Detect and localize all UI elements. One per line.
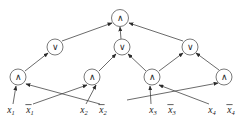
literal-text: x2 [98,105,107,116]
literals-layer: x1x1x2x2x3x3x4x4 [6,105,235,116]
or-gate-symbol: ∨ [187,42,194,52]
edge-lit-x1-to-and-1 [13,86,16,104]
edge-lit-not-x3-to-and-4 [127,83,218,100]
and-gate-symbol: ∧ [149,72,156,82]
literal-text: x4 [207,105,216,116]
edge-or-2-to-top-and [120,27,121,39]
edge-line [25,53,48,71]
edge-and-3-to-or-2 [128,54,146,71]
edge-line [129,23,183,41]
gate-and-2[interactable]: ∧ [84,69,100,85]
edge-lit-x4-to-and-3 [159,85,209,104]
literal-lit-not-x4: x4 [226,105,235,116]
circuit-canvas: ∧∨∨∨∧∧∧∧ x1x1x2x2x3x3x4x4 [0,0,244,125]
edge-or-3-to-top-and [129,23,183,41]
literal-text: x2 [79,105,88,116]
edge-and-2-to-or-2 [99,54,116,71]
edge-lit-x3-to-and-3 [150,86,151,104]
literal-text: x4 [226,105,235,116]
literal-lit-x2: x2 [79,105,88,116]
edge-and-4-to-or-3 [196,53,219,70]
gate-and-4[interactable]: ∧ [216,69,232,85]
edge-line [99,54,116,71]
literal-text: x3 [167,105,176,116]
edge-line [127,83,218,100]
gate-or-3[interactable]: ∨ [182,39,198,55]
literal-lit-x1: x1 [6,105,14,116]
edge-line [86,85,96,104]
edge-lit-x2-to-and-2 [86,85,96,104]
gate-and-3[interactable]: ∧ [144,69,160,85]
edge-line [128,54,146,71]
literal-lit-not-x2: x2 [98,105,107,116]
edge-and-1-to-or-1 [25,53,48,71]
literal-lit-not-x3: x3 [167,105,176,116]
edge-and-3-to-or-3 [159,53,183,71]
edge-line [196,53,219,70]
literal-lit-not-x1: x1 [25,105,33,116]
or-gate-symbol: ∨ [52,42,59,52]
literal-text: x1 [25,105,33,116]
literal-text: x3 [148,105,157,116]
and-gate-symbol: ∧ [117,13,124,23]
nodes-layer: ∧∨∨∨∧∧∧∧ [10,10,232,86]
edge-or-1-to-top-and [62,23,112,41]
gate-or-1[interactable]: ∨ [47,39,63,55]
and-gate-symbol: ∧ [15,72,22,82]
edge-line [120,27,121,39]
edge-line [159,85,209,104]
literal-lit-x4: x4 [207,105,216,116]
edge-line [150,86,151,104]
boolean-circuit-figure: ∧∨∨∨∧∧∧∧ x1x1x2x2x3x3x4x4 [0,0,244,125]
literal-text: x1 [6,105,14,116]
literal-lit-x3: x3 [148,105,157,116]
edge-lit-not-x2-to-and-1 [26,84,100,104]
gate-or-2[interactable]: ∨ [114,39,130,55]
edge-line [159,53,183,71]
edge-line [62,23,112,41]
gate-and-1[interactable]: ∧ [10,69,26,85]
or-gate-symbol: ∨ [119,42,126,52]
edge-line [26,84,100,104]
and-gate-symbol: ∧ [89,72,96,82]
edge-line [13,86,16,104]
gate-top-and[interactable]: ∧ [112,10,129,27]
and-gate-symbol: ∧ [221,72,228,82]
edges-layer [13,23,219,104]
